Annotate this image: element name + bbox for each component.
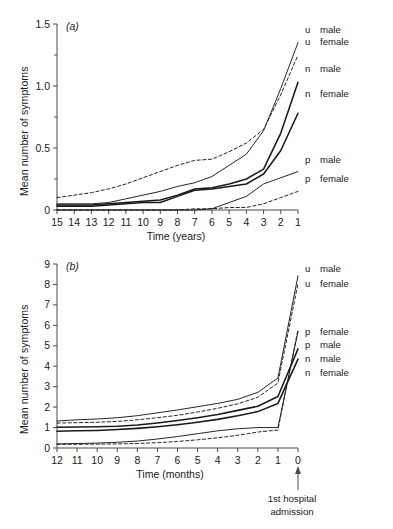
panel-a-plot: 00.51.01.5151413121110987654321umaleufem…: [0, 0, 393, 252]
svg-text:15: 15: [51, 216, 63, 228]
panel-b-tag: (b): [66, 260, 79, 272]
svg-text:1: 1: [275, 454, 281, 466]
svg-text:7: 7: [192, 216, 198, 228]
svg-text:9: 9: [157, 216, 163, 228]
panel-b-plot: 01234567891211109876543210umaleufemalepf…: [0, 252, 393, 529]
svg-text:5: 5: [226, 216, 232, 228]
svg-text:1: 1: [295, 216, 301, 228]
svg-text:2: 2: [255, 454, 261, 466]
svg-text:0: 0: [295, 454, 301, 466]
svg-text:male: male: [320, 339, 341, 350]
svg-text:11: 11: [120, 216, 131, 228]
svg-text:female: female: [320, 36, 349, 47]
svg-text:8: 8: [44, 278, 50, 290]
panel-b-x-axis-label: Time (months): [90, 468, 250, 480]
svg-text:7: 7: [44, 298, 50, 310]
annotation-line-2: admission: [270, 506, 313, 517]
svg-text:female: female: [320, 88, 349, 99]
svg-text:u: u: [305, 263, 310, 274]
svg-text:p: p: [305, 173, 310, 184]
svg-text:u: u: [305, 278, 310, 289]
svg-text:u: u: [305, 24, 310, 35]
svg-text:male: male: [320, 154, 341, 165]
svg-text:6: 6: [209, 216, 215, 228]
svg-text:0: 0: [44, 442, 50, 454]
svg-text:10: 10: [91, 454, 103, 466]
svg-text:3: 3: [261, 216, 267, 228]
svg-text:6: 6: [44, 319, 50, 331]
svg-text:2: 2: [44, 401, 50, 413]
svg-text:6: 6: [175, 454, 181, 466]
svg-text:8: 8: [175, 216, 181, 228]
svg-text:5: 5: [195, 454, 201, 466]
chart-panel-b: Mean number of symptoms (b) 012345678912…: [0, 252, 393, 529]
svg-text:14: 14: [68, 216, 80, 228]
svg-text:n: n: [305, 353, 310, 364]
svg-text:male: male: [320, 263, 341, 274]
svg-text:male: male: [320, 353, 341, 364]
svg-text:1.0: 1.0: [35, 80, 50, 92]
svg-text:7: 7: [154, 454, 160, 466]
panel-a-x-axis-label: Time (years): [96, 230, 256, 242]
svg-text:male: male: [320, 24, 341, 35]
svg-text:n: n: [305, 63, 310, 74]
svg-text:10: 10: [137, 216, 149, 228]
svg-text:n: n: [305, 367, 310, 378]
svg-text:5: 5: [44, 339, 50, 351]
figure-container: Mean number of symptoms (a) 00.51.01.515…: [0, 0, 393, 529]
svg-text:male: male: [320, 63, 341, 74]
annotation-line-1: 1st hospital: [268, 493, 317, 504]
svg-text:1.5: 1.5: [35, 18, 50, 30]
svg-text:female: female: [320, 278, 349, 289]
svg-text:4: 4: [44, 360, 50, 372]
svg-text:p: p: [305, 326, 310, 337]
svg-text:4: 4: [243, 216, 249, 228]
svg-text:11: 11: [72, 454, 83, 466]
svg-text:p: p: [305, 339, 310, 350]
svg-text:1: 1: [44, 421, 50, 433]
svg-text:u: u: [305, 36, 310, 47]
hospital-admission-annotation: 1st hospital admission: [232, 492, 352, 518]
svg-text:4: 4: [215, 454, 221, 466]
svg-text:0.5: 0.5: [35, 142, 50, 154]
svg-text:8: 8: [134, 454, 140, 466]
svg-text:3: 3: [235, 454, 241, 466]
svg-text:9: 9: [114, 454, 120, 466]
svg-text:p: p: [305, 154, 310, 165]
panel-a-y-axis-label: Mean number of symptoms: [18, 66, 30, 196]
svg-text:female: female: [320, 367, 349, 378]
svg-text:n: n: [305, 88, 310, 99]
svg-text:12: 12: [51, 454, 63, 466]
chart-panel-a: Mean number of symptoms (a) 00.51.01.515…: [0, 0, 393, 252]
panel-b-y-axis-label: Mean number of symptoms: [18, 304, 30, 434]
svg-text:12: 12: [103, 216, 115, 228]
svg-text:9: 9: [44, 258, 50, 270]
svg-text:0: 0: [44, 204, 50, 216]
svg-text:female: female: [320, 326, 349, 337]
svg-text:3: 3: [44, 380, 50, 392]
svg-text:13: 13: [86, 216, 98, 228]
svg-text:2: 2: [278, 216, 284, 228]
svg-text:female: female: [320, 173, 349, 184]
panel-a-tag: (a): [66, 20, 79, 32]
